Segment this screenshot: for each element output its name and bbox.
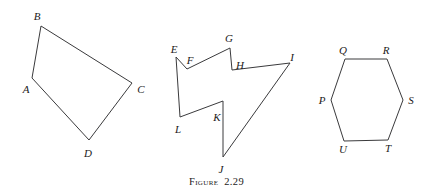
vertex-label-e: E bbox=[171, 44, 178, 55]
polygon-quadrilateral-abcd bbox=[32, 26, 132, 140]
vertex-label-t: T bbox=[385, 143, 391, 154]
vertex-label-l: L bbox=[175, 124, 181, 135]
vertex-label-f: F bbox=[187, 55, 194, 66]
vertex-label-h: H bbox=[236, 60, 244, 71]
vertex-label-q: Q bbox=[339, 45, 347, 56]
vertex-label-u: U bbox=[339, 144, 347, 155]
figure-container: ABCDEFGHIJKLPQRSTU Figure 2.29 bbox=[0, 0, 433, 196]
vertex-label-b: B bbox=[34, 11, 41, 22]
vertex-label-p: P bbox=[319, 95, 326, 106]
figure-caption: Figure 2.29 bbox=[0, 176, 433, 187]
vertex-label-k: K bbox=[213, 112, 220, 123]
vertex-label-i: I bbox=[290, 52, 294, 63]
polygon-hexagon-pqrstu bbox=[331, 59, 403, 141]
vertex-label-s: S bbox=[408, 95, 414, 106]
figure-drawing-canvas bbox=[0, 0, 433, 196]
vertex-label-c: C bbox=[137, 84, 144, 95]
vertex-label-j: J bbox=[219, 164, 224, 175]
vertex-label-a: A bbox=[23, 84, 30, 95]
vertex-label-g: G bbox=[225, 33, 233, 44]
vertex-label-d: D bbox=[84, 148, 92, 159]
vertex-label-r: R bbox=[383, 45, 390, 56]
